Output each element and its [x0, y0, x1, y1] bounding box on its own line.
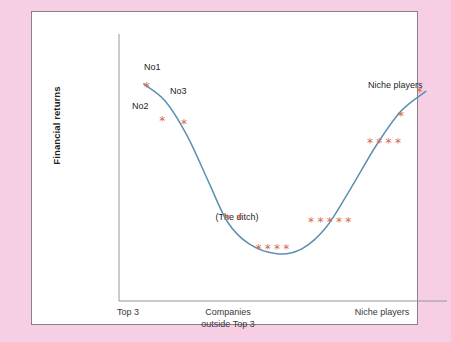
- financial-returns-curve: [144, 84, 426, 254]
- data-point-marker: *: [255, 242, 261, 256]
- data-point-marker: *: [367, 136, 373, 150]
- data-point-marker: *: [327, 215, 333, 229]
- data-point-marker: *: [317, 215, 323, 229]
- chart-panel: Financial returns Top 3 Companies outsid…: [31, 11, 418, 325]
- annotation-niche-players: Niche players: [368, 80, 423, 90]
- annotation-no1: No1: [144, 62, 161, 72]
- data-point-marker: *: [274, 242, 280, 256]
- data-point-marker: *: [345, 215, 351, 229]
- data-point-marker: *: [159, 114, 165, 128]
- data-point-markers: ********************: [144, 80, 423, 256]
- x-axis-tick-top3: Top 3: [88, 307, 168, 319]
- y-axis-label: Financial returns: [51, 66, 62, 186]
- data-point-marker: *: [144, 80, 150, 94]
- x-axis-tick-companies-line1: Companies: [178, 307, 278, 319]
- data-point-marker: *: [386, 136, 392, 150]
- plot-area: ********************: [32, 12, 451, 342]
- data-point-marker: *: [283, 242, 289, 256]
- axis-lines: [119, 34, 447, 301]
- x-axis-tick-companies-line2: outside Top 3: [178, 319, 278, 331]
- data-point-marker: *: [395, 136, 401, 150]
- x-axis-tick-companies-outside-top3: Companies outside Top 3: [178, 307, 278, 330]
- data-point-marker: *: [181, 117, 187, 131]
- data-point-marker: *: [265, 242, 271, 256]
- annotation-no3: No3: [170, 86, 187, 96]
- annotation-the-ditch: (The ditch): [192, 212, 282, 222]
- data-point-marker: *: [398, 109, 404, 123]
- data-point-marker: *: [336, 215, 342, 229]
- x-axis-tick-niche-players: Niche players: [332, 307, 432, 319]
- data-point-marker: *: [308, 215, 314, 229]
- data-point-marker: *: [376, 136, 382, 150]
- annotation-no2: No2: [132, 101, 149, 111]
